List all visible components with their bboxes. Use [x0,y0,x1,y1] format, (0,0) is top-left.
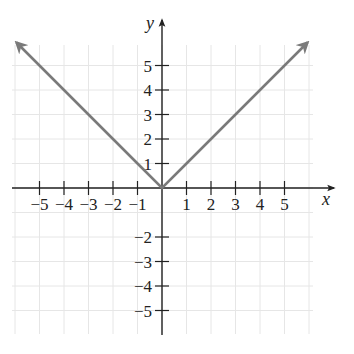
x-tick-label: 1 [182,195,191,214]
y-axis-label: y [144,13,154,33]
x-tick-label: 2 [207,195,216,214]
x-tick-label: −1 [128,195,146,214]
x-tick-label: −4 [55,195,74,214]
y-tick-label: −4 [134,277,153,296]
graph-canvas: −5−4−3−2−11234512345−2−3−4−5 x y [0,0,354,354]
y-tick-label: −2 [134,228,152,247]
y-tick-label: 2 [144,130,153,149]
x-tick-label: 3 [231,195,240,214]
x-tick-label: −3 [79,195,97,214]
x-tick-label: 5 [280,195,289,214]
y-tick-label: −3 [134,253,152,272]
y-tick-label: 5 [144,57,153,76]
x-tick-label: −2 [104,195,122,214]
x-tick-label: −5 [30,195,48,214]
y-tick-label: 4 [144,81,153,100]
x-tick-label: 4 [256,195,265,214]
y-tick-label: −5 [134,302,152,321]
y-tick-label: 3 [144,106,153,125]
x-axis-label: x [321,189,330,209]
